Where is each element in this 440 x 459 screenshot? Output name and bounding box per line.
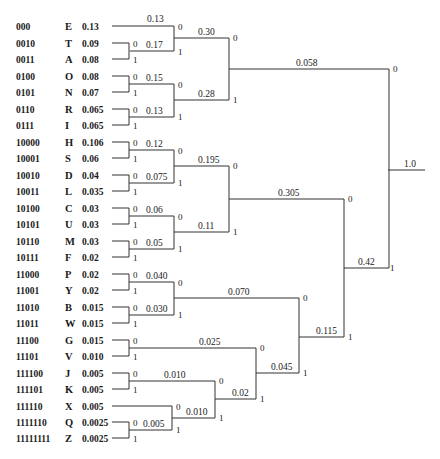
branch-bit-label: 1 [390,263,395,273]
symbol-letter: Y [65,285,73,296]
symbol-row: 11101V0.010 [16,351,104,362]
weight-label: 0.010 [186,407,208,417]
symbol-letter: V [65,351,73,362]
symbol-row: 0111I0.065 [16,120,104,131]
symbol-letter: C [65,203,73,214]
symbol-row: 10111F0.02 [16,252,99,263]
symbol-letter: P [65,269,72,280]
branch-bit-label: 0 [133,369,138,379]
branch-bit-label: 0 [178,22,183,32]
symbol-probability: 0.02 [82,286,99,296]
symbol-probability: 0.02 [82,253,99,263]
weight-label: 0.010 [164,370,186,380]
symbol-probability: 0.06 [82,154,99,164]
weight-label: 0.28 [198,89,215,99]
symbol-row: 10110M0.03 [16,236,99,247]
branch-bit-label: 1 [178,178,183,188]
codeword: 0010 [16,39,35,49]
codeword: 10011 [16,187,39,197]
branch-bit-label: 0 [303,293,308,303]
symbol-row: 1111110Q0.0025 [16,417,108,428]
branch-bit-label: 0 [133,72,138,82]
weight-label: 0.070 [228,287,250,297]
branch-bit-label: 0 [133,237,138,247]
codeword: 10000 [16,138,40,148]
branch-bit-label: 0 [178,80,183,90]
codeword: 10110 [16,237,39,247]
codeword: 0100 [16,72,35,82]
symbol-letter: N [65,87,73,98]
branch-bit-label: 0 [178,278,183,288]
branch-bit-label: 1 [133,352,138,362]
symbol-letter: Z [65,433,72,444]
branch-bit-label: 1 [176,425,181,435]
weight-label: 0.06 [146,205,163,215]
weight-label: 0.17 [146,40,163,50]
symbol-probability: 0.005 [82,369,104,379]
weight-label: 0.30 [198,27,215,37]
branch-bit-label: 0 [133,270,138,280]
symbol-row: 000E0.13 [16,21,99,32]
symbol-letter: X [65,401,73,412]
symbol-probability: 0.005 [82,402,104,412]
branch-bit-label: 0 [133,39,138,49]
branch-bit-label: 0 [133,105,138,115]
symbol-letter: U [65,219,73,230]
branch-bit-label: 1 [133,319,138,329]
weight-label: 0.305 [278,188,300,198]
codeword: 0111 [16,121,34,131]
codeword: 10101 [16,220,40,230]
symbol-letter: K [65,384,74,395]
branch-bit-label: 0 [393,64,398,74]
root-weight-label: 1.0 [404,159,416,169]
symbol-probability: 0.0025 [82,434,108,444]
symbol-letter: G [65,335,73,346]
symbol-row: 10100C0.03 [16,203,99,214]
branch-bit-label: 1 [133,154,138,164]
branch-bit-label: 1 [178,244,183,254]
symbol-row: 111100J0.005 [16,368,104,379]
codeword: 111101 [16,385,43,395]
symbol-letter: I [65,120,69,131]
codeword: 11101 [16,352,39,362]
symbol-probability: 0.08 [82,55,99,65]
huffman-tree-diagram: 000E0.130010T0.090011A0.080100O0.080101N… [0,0,440,459]
branch-bit-label: 0 [133,171,138,181]
codeword: 111110 [16,402,43,412]
symbol-letter: S [65,153,71,164]
weight-label: 0.058 [296,58,318,68]
node-weights: 0.13 0.17 0.15 0.13 0.30 0.28 0.058 0.12… [143,14,416,429]
codeword: 10010 [16,171,40,181]
branch-bit-label: 1 [233,95,238,105]
symbol-letter: R [65,104,73,115]
symbol-letter: E [65,21,72,32]
symbol-row: 11000P0.02 [16,269,99,280]
codeword: 111100 [16,369,43,379]
codeword: 1111110 [16,418,47,428]
symbol-letter: H [65,137,73,148]
symbol-letter: O [65,71,73,82]
symbol-row: 0101N0.07 [16,87,99,98]
weight-label: 0.030 [146,304,168,314]
symbol-probability: 0.065 [82,105,104,115]
symbol-row: 111101K0.005 [16,384,104,395]
weight-label: 0.025 [199,337,221,347]
symbol-probability: 0.005 [82,385,104,395]
symbol-letter: B [65,302,72,313]
symbol-probability: 0.0025 [82,418,108,428]
weight-label: 0.05 [146,238,163,248]
branch-bit-label: 1 [219,413,224,423]
symbol-probability: 0.015 [82,336,104,346]
symbol-row: 111110X0.005 [16,401,104,412]
symbol-row: 11010B0.015 [16,302,104,313]
weight-label: 0.15 [146,73,163,83]
branch-bit-label: 0 [260,343,265,353]
branch-bit-label: 0 [133,138,138,148]
tree-edges [112,26,425,438]
symbol-row: 10101U0.03 [16,219,99,230]
branch-bit-label: 1 [133,220,138,230]
branch-bit-label: 1 [133,55,138,65]
branch-bit-label: 1 [133,434,138,444]
weight-label: 0.045 [271,362,293,372]
codeword: 11011 [16,319,39,329]
